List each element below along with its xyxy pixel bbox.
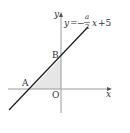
point-b-label: B xyxy=(52,50,59,60)
equation-variable: x xyxy=(92,18,97,28)
equation-lhs: y xyxy=(63,18,70,28)
y-axis-arrow-icon xyxy=(59,12,63,17)
y-axis-label: y xyxy=(53,9,60,19)
origin-label: O xyxy=(52,90,59,100)
equation-constant: +5 xyxy=(98,18,112,28)
fraction-denominator: 2 xyxy=(85,23,89,31)
fraction-numerator: a xyxy=(85,13,89,21)
equation-label: y = − a 2 x +5 xyxy=(63,13,112,31)
coordinate-diagram: y x O A B y = − a 2 x +5 xyxy=(0,0,130,133)
equation-minus: − xyxy=(77,18,85,28)
x-axis-label: x xyxy=(106,89,111,99)
graph-line xyxy=(9,27,88,110)
point-a-label: A xyxy=(21,78,29,88)
shaded-triangle-aob xyxy=(31,58,61,89)
